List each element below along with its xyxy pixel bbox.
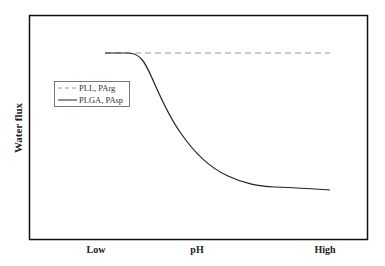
x-tick-high: High: [314, 244, 336, 255]
x-tick-low: Low: [87, 244, 107, 255]
legend-label-pll-parg: PLL, PArg: [79, 83, 116, 93]
plot-frame: [30, 16, 368, 240]
legend: PLL, PArg PLGA, PAsp: [55, 82, 130, 107]
x-axis-label: pH: [190, 244, 204, 255]
chart: PLL, PArg PLGA, PAsp Low pH High Water f…: [0, 0, 385, 266]
legend-label-plga-pasp: PLGA, PAsp: [79, 95, 123, 105]
y-axis-label: Water flux: [12, 102, 24, 153]
series-plga-pasp: [105, 53, 330, 190]
